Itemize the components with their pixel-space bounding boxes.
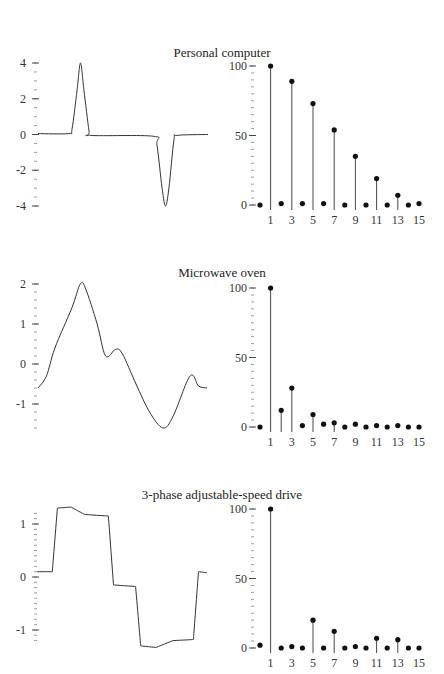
harmonic-marker bbox=[268, 285, 273, 290]
x-tick-label: 9 bbox=[352, 435, 358, 449]
harmonic-marker bbox=[395, 193, 400, 198]
harmonic-marker bbox=[300, 201, 305, 206]
waveform-line bbox=[38, 63, 208, 206]
x-tick-label: 9 bbox=[352, 213, 358, 227]
x-tick-label: 11 bbox=[371, 435, 383, 449]
harmonic-marker bbox=[279, 408, 284, 413]
x-tick-label: 3 bbox=[289, 213, 295, 227]
x-tick-label: 13 bbox=[392, 656, 404, 670]
y-tick-label: 0 bbox=[241, 198, 247, 212]
harmonic-marker bbox=[310, 101, 315, 106]
harmonic-marker bbox=[342, 424, 347, 429]
y-tick-label: 0 bbox=[241, 641, 247, 655]
x-tick-label: 7 bbox=[331, 656, 337, 670]
harmonic-marker bbox=[374, 176, 379, 181]
harmonic-marker bbox=[363, 424, 368, 429]
harmonic-marker bbox=[289, 644, 294, 649]
harmonic-marker bbox=[385, 645, 390, 650]
y-tick-label: 100 bbox=[229, 281, 247, 295]
harmonic-marker bbox=[363, 645, 368, 650]
x-tick-label: 1 bbox=[268, 435, 274, 449]
harmonic-marker bbox=[321, 422, 326, 427]
y-tick-label: 100 bbox=[229, 502, 247, 516]
harmonic-marker bbox=[279, 645, 284, 650]
y-tick-label: 2 bbox=[20, 92, 26, 106]
y-tick-label: 0 bbox=[20, 570, 26, 584]
harmonic-marker bbox=[268, 63, 273, 68]
y-tick-label: -1 bbox=[16, 397, 26, 411]
harmonic-marker bbox=[416, 201, 421, 206]
harmonic-marker bbox=[374, 423, 379, 428]
x-tick-label: 15 bbox=[413, 213, 425, 227]
x-tick-label: 5 bbox=[310, 435, 316, 449]
harmonic-marker bbox=[342, 202, 347, 207]
waveform-line bbox=[38, 282, 207, 428]
y-tick-label: 0 bbox=[20, 128, 26, 142]
harmonic-marker bbox=[332, 629, 337, 634]
x-tick-label: 3 bbox=[289, 435, 295, 449]
y-tick-label: 50 bbox=[235, 129, 247, 143]
harmonic-marker bbox=[342, 645, 347, 650]
x-tick-label: 15 bbox=[413, 656, 425, 670]
y-tick-label: 1 bbox=[20, 517, 26, 531]
x-tick-label: 1 bbox=[268, 213, 274, 227]
harmonic-marker bbox=[310, 412, 315, 417]
harmonic-marker bbox=[416, 645, 421, 650]
x-tick-label: 7 bbox=[331, 213, 337, 227]
y-tick-label: 2 bbox=[20, 277, 26, 291]
x-tick-label: 7 bbox=[331, 435, 337, 449]
harmonic-marker bbox=[395, 423, 400, 428]
x-tick-label: 11 bbox=[371, 656, 383, 670]
harmonic-marker bbox=[353, 422, 358, 427]
harmonic-marker bbox=[289, 385, 294, 390]
harmonic-marker bbox=[321, 201, 326, 206]
harmonic-marker bbox=[385, 202, 390, 207]
y-tick-label: 50 bbox=[235, 351, 247, 365]
x-tick-label: 15 bbox=[413, 435, 425, 449]
figure-canvas: 420-2-4210-110-1050100135791113150501001… bbox=[0, 0, 444, 674]
y-tick-label: -2 bbox=[16, 163, 26, 177]
harmonic-marker bbox=[406, 424, 411, 429]
harmonic-marker bbox=[257, 643, 262, 648]
harmonic-marker bbox=[385, 424, 390, 429]
y-tick-label: 0 bbox=[20, 357, 26, 371]
x-tick-label: 13 bbox=[392, 435, 404, 449]
harmonic-marker bbox=[395, 637, 400, 642]
y-tick-label: 4 bbox=[20, 56, 26, 70]
x-tick-label: 5 bbox=[310, 213, 316, 227]
x-tick-label: 3 bbox=[289, 656, 295, 670]
harmonic-marker bbox=[300, 645, 305, 650]
x-tick-label: 9 bbox=[352, 656, 358, 670]
x-tick-label: 1 bbox=[268, 656, 274, 670]
harmonic-marker bbox=[332, 127, 337, 132]
y-tick-label: 100 bbox=[229, 59, 247, 73]
harmonic-marker bbox=[289, 79, 294, 84]
harmonic-marker bbox=[406, 645, 411, 650]
harmonic-marker bbox=[374, 636, 379, 641]
waveform-line bbox=[37, 507, 207, 647]
x-tick-label: 5 bbox=[310, 656, 316, 670]
y-tick-label: 0 bbox=[241, 420, 247, 434]
x-tick-label: 13 bbox=[392, 213, 404, 227]
harmonic-marker bbox=[353, 644, 358, 649]
harmonic-marker bbox=[300, 423, 305, 428]
harmonic-marker bbox=[268, 506, 273, 511]
y-tick-label: -1 bbox=[16, 623, 26, 637]
y-tick-label: -4 bbox=[16, 199, 26, 213]
harmonic-marker bbox=[332, 420, 337, 425]
harmonic-marker bbox=[416, 424, 421, 429]
harmonic-marker bbox=[321, 645, 326, 650]
harmonic-marker bbox=[363, 202, 368, 207]
y-tick-label: 1 bbox=[20, 317, 26, 331]
harmonic-marker bbox=[353, 154, 358, 159]
y-tick-label: 50 bbox=[235, 572, 247, 586]
harmonic-marker bbox=[257, 424, 262, 429]
harmonic-marker bbox=[257, 202, 262, 207]
x-tick-label: 11 bbox=[371, 213, 383, 227]
harmonic-marker bbox=[310, 618, 315, 623]
harmonic-marker bbox=[406, 202, 411, 207]
harmonic-marker bbox=[279, 201, 284, 206]
